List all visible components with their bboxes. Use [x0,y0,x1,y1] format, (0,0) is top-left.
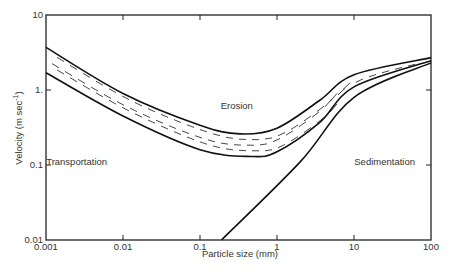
hatch-dash [182,131,189,134]
hatch-dash [130,108,137,111]
hatch-dash [161,114,168,117]
hatch-dash [226,137,233,138]
hatch-dash [325,99,332,107]
hatch-dash [174,132,181,135]
hatch-dash [174,120,181,123]
region-label-erosion: Erosion [221,100,253,111]
hatch-dash [83,85,90,89]
hatch-dash [161,126,168,129]
hatch-dash [278,133,285,136]
hatch-dash [291,125,298,129]
hatch-dash [343,83,350,89]
hatch-dash [369,74,376,76]
hatch-dash [57,70,64,74]
hatch-dash [135,103,142,106]
hatch-dash [65,71,72,75]
hatch-dash [260,144,267,145]
x-tick-label: 10 [349,241,360,252]
hjulstrom-chart: 0.0010.010.1110100101.0.10.01 ErosionTra… [0,0,456,274]
y-tick-label: 0.01 [25,234,44,245]
hatch-dash [304,116,311,121]
hatch-dash [356,79,363,82]
hatch-dash [91,87,98,91]
hatch-dash [299,122,306,127]
hatch-dash [104,95,111,99]
hatch-dash [213,134,220,136]
hatch-dash [122,107,129,111]
hatch-dash [187,125,194,128]
region-label-sedimentation: Sedimentation [354,156,415,167]
hatch-dash [273,139,280,142]
hatch-dash [286,131,293,135]
hatch-dash [187,137,194,140]
hatch-dash [213,146,220,148]
x-tick-label: 0.01 [114,241,133,252]
y-tick-label: 1. [35,84,43,95]
hatch-dash [200,142,207,144]
y-tick-label: 0.1 [30,159,43,170]
hatch-dash [226,149,233,150]
region-label-transportation: Transportation [46,156,107,167]
hatch-dash [117,102,124,106]
axis-ticks: 0.0010.010.1110100101.0.10.01 [25,9,439,252]
hatch-dash [195,136,202,138]
curves [46,47,431,240]
hatch-dash [148,109,155,112]
hatch-dash [169,126,176,129]
x-axis-label: Particle size (mm) [202,248,278,259]
hatch-dash [70,78,77,82]
hatch-dash [265,150,272,151]
hatch-dash [148,120,155,123]
hatch-dash [109,100,116,104]
hatch-dash [382,71,389,73]
hatch-dash [135,114,142,117]
hatch-dash [78,79,85,83]
y-axis-label: Velocity (m sec-1) [12,91,24,164]
hatch-dash [200,130,207,132]
y-tick-label: 10 [32,9,43,20]
hatch-dash [312,112,319,117]
hatch-dash [317,106,324,111]
x-tick-label: 100 [423,241,439,252]
plot-frame [46,15,431,240]
hatch-dash [143,114,150,117]
hatch-dash [96,93,103,97]
erosion-upper-curve [46,47,431,134]
sedimentation-curve [221,63,431,240]
hatch-dash [221,143,228,144]
hatch-dash [208,140,215,142]
hatch-dash [156,120,163,123]
hatch-dash [265,138,272,139]
hatch-dash [52,64,59,68]
